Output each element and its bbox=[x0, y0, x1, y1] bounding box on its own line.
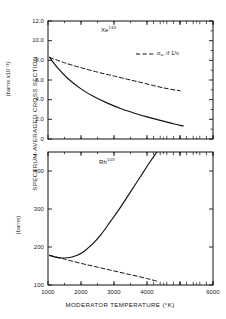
ytick-upper-3: 6.0 bbox=[14, 77, 44, 83]
curve-upper-main bbox=[50, 57, 184, 126]
ytick-upper-5: 10.0 bbox=[14, 37, 44, 43]
ytick-lower-2: 300 bbox=[14, 206, 44, 212]
ytick-lower-1: 200 bbox=[14, 244, 44, 250]
ytick-upper-2: 4.0 bbox=[14, 96, 44, 102]
xtick-lower-5: 6000 bbox=[199, 289, 226, 295]
ytick-upper-0: 0 bbox=[14, 136, 44, 142]
plot-frame-lower bbox=[48, 152, 213, 285]
ytick-lower-3: 400 bbox=[14, 168, 44, 174]
upper-panel-title: Xe135 bbox=[101, 25, 116, 33]
plot-frame-upper bbox=[48, 21, 213, 139]
curve-lower-reference bbox=[50, 255, 157, 281]
ytick-upper-1: 2.0 bbox=[14, 116, 44, 122]
lower-panel-title: Rh103 bbox=[99, 157, 115, 165]
curve-upper-reference bbox=[50, 57, 180, 90]
ytick-lower-0: 100 bbox=[14, 282, 44, 288]
ytick-upper-4: 8.0 bbox=[14, 57, 44, 63]
figure-container: SPECTRUM-AVERAGED CROSS SECTION (barns x… bbox=[0, 0, 226, 319]
xtick-lower-2: 3000 bbox=[100, 289, 128, 295]
xtick-lower-1: 2000 bbox=[67, 289, 95, 295]
legend-label: σa, if 1/v bbox=[157, 50, 179, 56]
ytick-upper-6: 12.0 bbox=[14, 18, 44, 24]
xtick-lower-3: 4000 bbox=[133, 289, 161, 295]
xtick-lower-0: 1000 bbox=[34, 289, 62, 295]
